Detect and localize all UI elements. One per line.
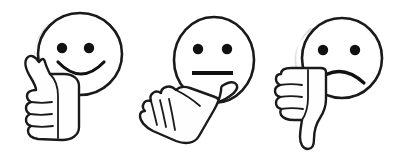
eye-left bbox=[318, 45, 328, 55]
knuckle-line-1 bbox=[31, 102, 52, 103]
knuckle-line-2 bbox=[30, 114, 52, 115]
knuckle-line-1 bbox=[280, 84, 302, 85]
eye-right bbox=[350, 45, 360, 55]
emoticon-illustration bbox=[0, 0, 403, 163]
knuckle-line-3 bbox=[31, 126, 53, 127]
eye-right bbox=[84, 43, 94, 53]
eye-right bbox=[222, 44, 232, 54]
knuckle-line-2 bbox=[280, 96, 302, 97]
eye-left bbox=[57, 43, 67, 53]
eye-left bbox=[193, 44, 203, 54]
knuckle-line-3 bbox=[281, 108, 303, 109]
emoticons-svg-canvas bbox=[0, 0, 403, 163]
